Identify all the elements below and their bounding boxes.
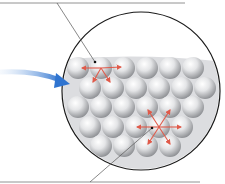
molecule-sphere xyxy=(79,116,101,138)
molecule-sphere xyxy=(182,57,204,79)
molecule-sphere xyxy=(113,96,135,118)
molecule-sphere xyxy=(136,96,158,118)
molecule-sphere xyxy=(159,135,181,157)
surface-tension-diagram xyxy=(0,0,225,184)
diagram-stage xyxy=(0,0,225,184)
molecule-sphere xyxy=(136,57,158,79)
molecule-sphere xyxy=(159,96,181,118)
surface-molecule-dot xyxy=(94,61,97,64)
molecule-sphere xyxy=(79,77,101,99)
molecule-sphere xyxy=(90,96,112,118)
molecule-sphere xyxy=(136,135,158,157)
molecule-sphere xyxy=(182,96,204,118)
molecule-sphere xyxy=(125,77,147,99)
molecule-sphere xyxy=(67,96,89,118)
liquid-region xyxy=(55,56,225,184)
molecule-sphere xyxy=(159,57,181,79)
pointer-arrow-icon xyxy=(0,72,70,88)
interior-molecule-dot xyxy=(151,127,154,130)
molecule-sphere xyxy=(102,116,124,138)
molecule-sphere xyxy=(148,77,170,99)
molecule-sphere xyxy=(113,57,135,79)
molecule-sphere xyxy=(171,77,193,99)
molecule-sphere xyxy=(194,77,216,99)
molecule-sphere xyxy=(102,77,124,99)
